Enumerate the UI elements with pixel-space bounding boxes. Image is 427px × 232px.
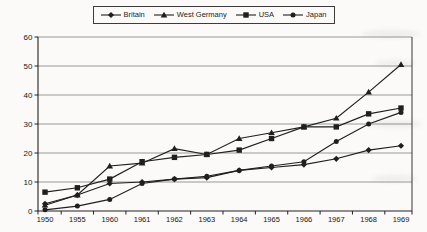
data-point-west-germany-1969 bbox=[398, 61, 405, 67]
data-point-west-germany-1962 bbox=[171, 145, 178, 151]
data-point-usa-1962 bbox=[172, 155, 177, 160]
legend-item-britain: Britain bbox=[101, 11, 145, 19]
legend-label-usa: USA bbox=[259, 11, 274, 19]
data-point-britain-1969 bbox=[398, 143, 404, 149]
x-axis-label-1968: 1968 bbox=[360, 215, 377, 224]
japan-marker-icon bbox=[283, 11, 303, 19]
y-axis-label-40: 40 bbox=[24, 91, 33, 100]
x-axis-label-1955: 1955 bbox=[69, 215, 86, 224]
x-axis-label-1966: 1966 bbox=[296, 215, 313, 224]
west-germany-marker-icon bbox=[154, 11, 174, 19]
y-axis-label-30: 30 bbox=[24, 120, 33, 129]
x-axis-label-1967: 1967 bbox=[328, 215, 345, 224]
data-point-usa-1967 bbox=[334, 124, 339, 129]
y-axis-label-0: 0 bbox=[28, 207, 33, 216]
y-axis-label-20: 20 bbox=[24, 149, 33, 158]
data-point-usa-1960 bbox=[107, 176, 112, 181]
y-axis-label-50: 50 bbox=[24, 62, 33, 71]
data-point-usa-1950 bbox=[42, 189, 47, 194]
series-line-usa bbox=[45, 108, 401, 192]
x-axis-label-1960: 1960 bbox=[101, 215, 118, 224]
data-point-britain-1967 bbox=[333, 156, 339, 162]
legend-label-japan: Japan bbox=[306, 11, 326, 19]
usa-marker-icon bbox=[236, 11, 256, 19]
x-axis-label-1964: 1964 bbox=[231, 215, 248, 224]
x-axis-label-1965: 1965 bbox=[263, 215, 280, 224]
line-chart-plot: 0102030405060195019551960196119621963196… bbox=[0, 0, 427, 232]
data-point-japan-1965 bbox=[269, 164, 274, 169]
data-point-japan-1950 bbox=[43, 207, 48, 212]
y-axis-label-10: 10 bbox=[24, 178, 33, 187]
legend-label-west-germany: West Germany bbox=[177, 11, 227, 19]
data-point-japan-1963 bbox=[204, 174, 209, 179]
legend-item-west-germany: West Germany bbox=[154, 11, 227, 19]
chart-legend: Britain West Germany USA Japan bbox=[93, 6, 335, 24]
series-line-japan bbox=[45, 112, 401, 209]
data-point-japan-1967 bbox=[334, 139, 339, 144]
legend-label-britain: Britain bbox=[124, 11, 145, 19]
data-point-britain-1968 bbox=[366, 147, 372, 153]
data-point-usa-1968 bbox=[366, 111, 371, 116]
series-line-britain bbox=[45, 146, 401, 204]
legend-item-japan: Japan bbox=[283, 11, 326, 19]
data-point-japan-1969 bbox=[399, 110, 404, 115]
data-point-japan-1960 bbox=[107, 197, 112, 202]
data-point-usa-1965 bbox=[269, 136, 274, 141]
y-axis-label-60: 60 bbox=[24, 33, 33, 42]
x-axis-label-1950: 1950 bbox=[37, 215, 54, 224]
data-point-japan-1962 bbox=[172, 177, 177, 182]
data-point-japan-1966 bbox=[301, 159, 306, 164]
x-axis-label-1962: 1962 bbox=[166, 215, 183, 224]
x-axis-label-1969: 1969 bbox=[393, 215, 410, 224]
data-point-japan-1968 bbox=[366, 122, 371, 127]
britain-marker-icon bbox=[101, 11, 121, 19]
data-point-japan-1961 bbox=[140, 181, 145, 186]
data-point-japan-1955 bbox=[75, 204, 80, 209]
data-point-japan-1964 bbox=[237, 168, 242, 173]
chart-screenshot: Britain West Germany USA Japan 010203040… bbox=[0, 0, 427, 232]
legend-item-usa: USA bbox=[236, 11, 274, 19]
x-axis-label-1961: 1961 bbox=[134, 215, 151, 224]
data-point-usa-1963 bbox=[204, 152, 209, 157]
data-point-usa-1964 bbox=[236, 147, 241, 152]
x-axis-label-1963: 1963 bbox=[198, 215, 215, 224]
data-point-usa-1966 bbox=[301, 124, 306, 129]
data-point-usa-1961 bbox=[139, 159, 144, 164]
data-point-usa-1955 bbox=[75, 185, 80, 190]
